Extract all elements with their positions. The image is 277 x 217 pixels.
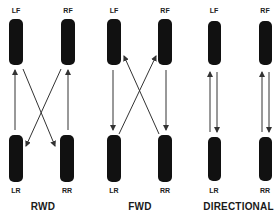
rwd-lr-label: LR — [6, 187, 26, 194]
dir-lr-tire — [208, 137, 221, 181]
rwd-lf-label: LF — [6, 7, 26, 14]
fwd-arrow-rr-lf — [124, 56, 159, 134]
rwd-arrows — [15, 69, 68, 146]
rwd-title: RWD — [20, 201, 66, 212]
fwd-rf-tire — [158, 19, 172, 65]
fwd-rf-label: RF — [155, 7, 175, 14]
directional-title: DIRECTIONAL — [200, 201, 277, 212]
fwd-arrows — [113, 56, 166, 134]
rwd-rr-tire — [60, 135, 74, 182]
dir-lf-tire — [208, 21, 221, 65]
dir-rr-label: RR — [255, 187, 275, 194]
rwd-rf-tire — [61, 19, 75, 65]
fwd-title: FWD — [117, 201, 163, 212]
rwd-arrow-rf-lr — [26, 69, 61, 146]
fwd-lr-tire — [107, 135, 121, 182]
rwd-rr-label: RR — [57, 187, 77, 194]
dir-lf-label: LF — [204, 7, 224, 14]
rwd-tires — [9, 19, 75, 182]
dir-rf-tire — [259, 21, 272, 65]
fwd-lr-label: LR — [104, 187, 124, 194]
tire-rotation-diagram — [0, 0, 277, 217]
fwd-rr-tire — [158, 135, 172, 182]
dir-rf-label: RF — [255, 7, 275, 14]
rwd-arrow-lf-rr — [23, 69, 55, 146]
rwd-lf-tire — [9, 19, 23, 65]
dir-rr-tire — [259, 137, 272, 181]
fwd-arrow-lr-rf — [119, 56, 156, 134]
rwd-rf-label: RF — [58, 7, 78, 14]
fwd-rr-label: RR — [155, 187, 175, 194]
fwd-tires — [107, 19, 172, 182]
rwd-lr-tire — [9, 135, 23, 182]
dir-lr-label: LR — [204, 187, 224, 194]
directional-arrows — [210, 72, 269, 132]
fwd-lf-label: LF — [104, 7, 124, 14]
fwd-lf-tire — [107, 19, 121, 65]
